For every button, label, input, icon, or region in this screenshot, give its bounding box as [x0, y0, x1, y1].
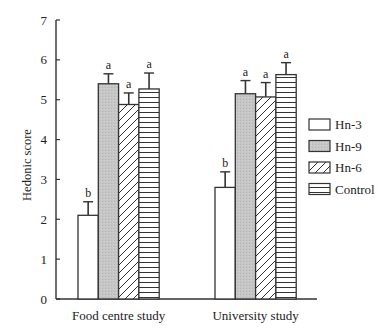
legend-swatch: [309, 162, 330, 173]
legend-item: Hn-9: [309, 139, 362, 154]
bar-hn-6: [256, 97, 276, 299]
y-tick-label: 5: [41, 92, 48, 107]
y-tick-label: 3: [41, 172, 48, 187]
x-category-label: University study: [212, 308, 299, 323]
legend: Hn-3Hn-9Hn-6Control: [309, 117, 375, 197]
legend-label: Hn-6: [335, 160, 362, 175]
y-tick-label: 4: [41, 132, 48, 147]
bar-hn-6: [119, 104, 139, 299]
legend-swatch: [309, 184, 330, 195]
y-tick-label: 1: [41, 252, 48, 267]
legend-label: Hn-3: [335, 117, 362, 132]
legend-item: Hn-6: [309, 160, 362, 175]
x-category-label: Food centre study: [72, 308, 166, 323]
y-tick-label: 0: [41, 292, 48, 307]
bar-hn-9: [98, 84, 118, 299]
legend-item: Control: [309, 182, 375, 197]
bar-hn-9: [235, 94, 255, 299]
significance-label: a: [146, 57, 152, 71]
significance-label: a: [263, 67, 269, 81]
bar-hn-3: [78, 215, 98, 299]
y-tick-label: 6: [41, 52, 48, 67]
y-axis-ticks: 01234567: [41, 13, 61, 307]
significance-label: b: [85, 186, 91, 200]
legend-swatch: [309, 141, 330, 152]
bars: baaabaaa: [78, 47, 296, 299]
significance-label: a: [283, 47, 289, 61]
legend-label: Control: [335, 182, 375, 197]
significance-label: a: [126, 77, 132, 91]
significance-label: a: [243, 65, 249, 79]
bar-hn-3: [215, 187, 235, 299]
legend-swatch: [309, 119, 330, 130]
y-axis-title: Hedonic score: [20, 129, 34, 201]
y-tick-label: 7: [41, 13, 48, 28]
bar-control: [276, 75, 296, 299]
bar-control: [139, 89, 159, 299]
significance-label: b: [222, 156, 228, 170]
legend-label: Hn-9: [335, 139, 362, 154]
category-labels: Food centre studyUniversity study: [72, 308, 299, 323]
y-tick-label: 2: [41, 212, 48, 227]
legend-item: Hn-3: [309, 117, 362, 132]
significance-label: a: [106, 58, 112, 72]
bar-chart: 01234567 Hedonic score baaabaaa Food cen…: [0, 0, 391, 334]
